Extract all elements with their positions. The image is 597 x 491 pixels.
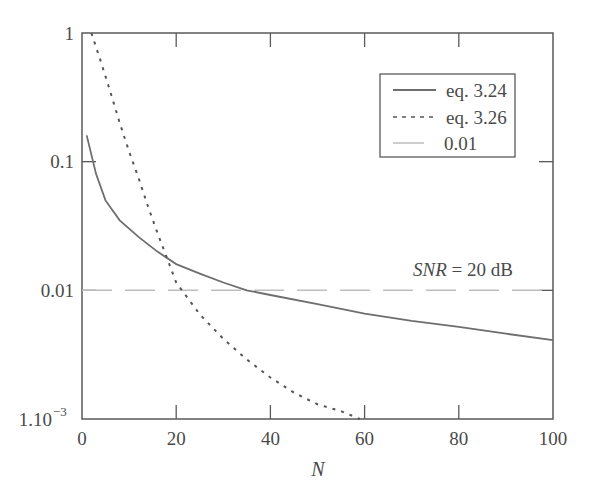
legend-label-eq-3-26: eq. 3.26 [446,107,507,128]
snr-annotation-italic: SNR [413,259,447,280]
x-tick-label-100: 100 [539,428,568,449]
x-axis-label: N [310,458,326,480]
legend-label-eq-3-24: eq. 3.24 [446,80,507,101]
y-tick-label-0.001-exponent: −3 [53,404,67,419]
y-tick-label-0.001: 1.10 [19,409,52,430]
snr-annotation: SNR = 20 dB [413,259,513,280]
x-tick-label-40: 40 [261,428,280,449]
y-tick-label-1: 1 [65,23,75,44]
legend-label-0-01: 0.01 [444,133,477,154]
snr-annotation-rest: = 20 dB [447,259,513,280]
x-tick-labels: 020406080100 [77,428,567,449]
y-tick-label-0.01: 0.01 [41,280,74,301]
x-tick-label-20: 20 [167,428,186,449]
series-eq-3-26 [91,33,360,419]
legend: eq. 3.24 eq. 3.26 0.01 [380,74,515,157]
series-eq-3-24 [87,135,553,340]
x-tick-label-0: 0 [77,428,87,449]
x-tick-label-60: 60 [355,428,374,449]
x-tick-label-80: 80 [449,428,468,449]
y-tick-label-0.1: 0.1 [50,151,74,172]
chart-svg: 1 0.1 0.01 1.10 −3 020406080100 N SNR = … [0,0,597,491]
